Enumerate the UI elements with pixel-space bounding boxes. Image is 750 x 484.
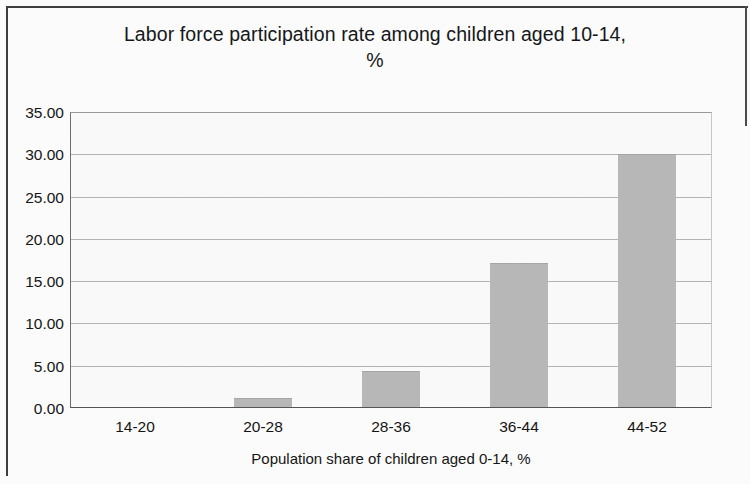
chart-page: Labor force participation rate among chi… <box>0 0 750 484</box>
x-axis-tick-labels: 14-2020-2828-3636-4444-52 <box>71 418 711 436</box>
bar-slot <box>455 113 583 407</box>
bar <box>618 154 676 407</box>
y-axis-tick-label: 30.00 <box>2 147 64 162</box>
y-axis-tick-labels: 0.005.0010.0015.0020.0025.0030.0035.00 <box>0 112 64 408</box>
y-axis-tick-label: 5.00 <box>2 359 64 374</box>
bar <box>234 398 292 407</box>
y-axis-tick-label: 15.00 <box>2 274 64 289</box>
chart-plot-wrapper: 0.005.0010.0015.0020.0025.0030.0035.00 1… <box>0 0 750 484</box>
bar <box>490 263 548 407</box>
bar <box>362 371 420 407</box>
bar-slot <box>327 113 455 407</box>
x-axis-tick-label: 44-52 <box>583 418 711 436</box>
bar-series <box>71 113 711 407</box>
x-axis-tick-label: 28-36 <box>327 418 455 436</box>
y-axis-tick-label: 20.00 <box>2 232 64 247</box>
y-axis-tick-label: 25.00 <box>2 190 64 205</box>
y-axis-tick-label: 35.00 <box>2 105 64 120</box>
y-axis-tick-label: 0.00 <box>2 401 64 416</box>
bar-slot <box>199 113 327 407</box>
x-axis-title: Population share of children aged 0-14, … <box>71 450 711 467</box>
y-axis-tick-label: 10.00 <box>2 316 64 331</box>
x-axis-tick-label: 36-44 <box>455 418 583 436</box>
bar-slot <box>71 113 199 407</box>
x-axis-tick-label: 20-28 <box>199 418 327 436</box>
x-axis-tick-label: 14-20 <box>71 418 199 436</box>
bar-slot <box>583 113 711 407</box>
